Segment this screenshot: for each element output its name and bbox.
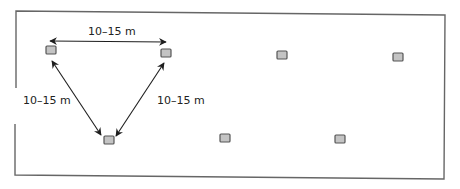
label-left-distance: 10–15 m bbox=[23, 94, 71, 107]
node-5 bbox=[393, 53, 403, 61]
plot-border bbox=[15, 11, 445, 179]
node-7 bbox=[335, 135, 345, 143]
arrow-top bbox=[50, 41, 166, 42]
nodes bbox=[46, 46, 403, 144]
node-1 bbox=[46, 46, 56, 54]
node-2 bbox=[161, 49, 171, 57]
node-3 bbox=[104, 136, 114, 144]
label-top-distance: 10–15 m bbox=[88, 25, 136, 38]
node-6 bbox=[220, 134, 230, 142]
node-4 bbox=[277, 51, 287, 59]
distance-arrows bbox=[50, 41, 166, 136]
spacing-diagram: 10–15 m 10–15 m 10–15 m bbox=[0, 0, 460, 189]
label-right-distance: 10–15 m bbox=[157, 94, 205, 107]
